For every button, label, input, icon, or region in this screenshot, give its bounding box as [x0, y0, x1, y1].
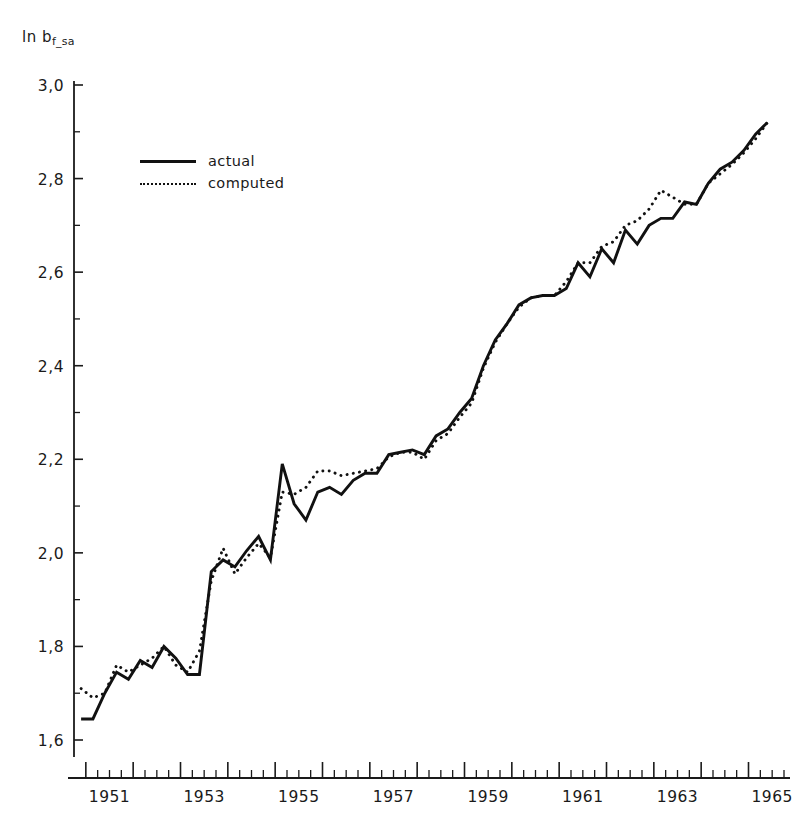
y-tick-label: 1,8	[38, 638, 64, 656]
x-tick-label: 1963	[657, 788, 698, 806]
series-line-computed	[81, 122, 767, 697]
y-tick-label: 2,6	[38, 264, 64, 282]
axes-layer	[68, 81, 790, 778]
x-tick-label: 1951	[89, 788, 130, 806]
figure-container: ln bf_sa actual computed 1,61,82,02,22,4…	[0, 0, 802, 836]
tick-labels-layer: 1,61,82,02,22,42,62,83,01951195319551957…	[38, 77, 793, 806]
y-tick-label: 2,8	[38, 171, 64, 189]
y-tick-label: 3,0	[38, 77, 64, 95]
x-tick-label: 1965	[751, 788, 792, 806]
x-tick-label: 1953	[183, 788, 224, 806]
y-tick-label: 2,0	[38, 545, 64, 563]
x-tick-label: 1957	[373, 788, 414, 806]
series-line-actual	[81, 122, 767, 719]
series-layer	[81, 122, 767, 719]
y-tick-label: 2,2	[38, 451, 64, 469]
x-tick-label: 1959	[467, 788, 508, 806]
y-tick-label: 1,6	[38, 732, 64, 750]
x-tick-label: 1955	[278, 788, 319, 806]
y-tick-label: 2,4	[38, 358, 64, 376]
x-tick-label: 1961	[562, 788, 603, 806]
chart-plot-area: 1,61,82,02,22,42,62,83,01951195319551957…	[0, 0, 802, 836]
